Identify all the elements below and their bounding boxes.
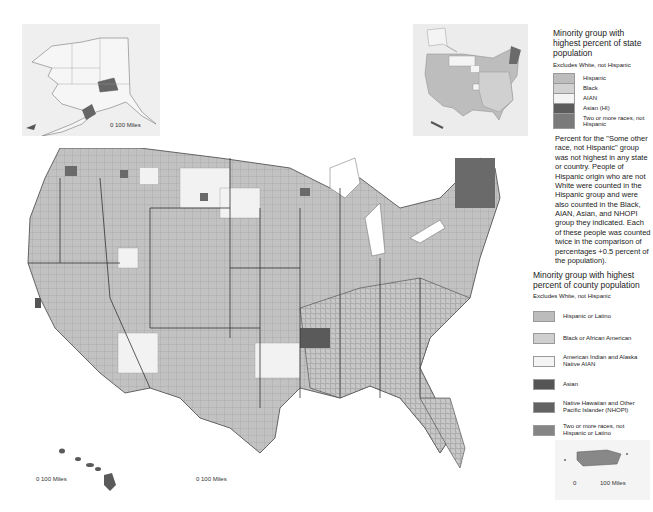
swatch-nhopi (533, 402, 555, 413)
states-overview-map (413, 24, 528, 136)
hawaii-scale-label: 0 100 Miles (36, 476, 67, 482)
legend-label: Black (583, 85, 598, 92)
swatch-black (533, 333, 555, 344)
legend-label: Asian (563, 381, 578, 388)
state-legend: Minority group with highest percent of s… (553, 28, 651, 129)
legend-label: Native Hawaiian and Other Pacific Island… (563, 400, 649, 414)
swatch-aian (533, 356, 555, 367)
state-legend-item-aian: AIAN (553, 93, 651, 103)
state-legend-title: Minority group with highest percent of s… (553, 28, 651, 59)
swatch-asian (553, 103, 575, 114)
state-legend-subtitle: Excludes White, not Hispanic (553, 62, 651, 69)
legend-label: AIAN (583, 95, 597, 102)
county-legend-item-aian: American Indian and Alaska Native AIAN (533, 349, 651, 373)
legend-label: Hispanic or Latino (563, 313, 611, 320)
state-legend-item-black: Black (553, 83, 651, 93)
swatch-two-or-more (553, 113, 575, 129)
puerto-rico-scale: 0 100 Miles (573, 480, 633, 486)
hawaii-map (50, 445, 150, 495)
conus-county-map (0, 148, 520, 488)
county-legend-item-hispanic: Hispanic or Latino (533, 305, 651, 327)
legend-label: Asian (HI) (583, 105, 610, 112)
county-legend-subtitle: Excludes White, not Hispanic (533, 293, 651, 300)
legend-label: Hispanic (583, 75, 606, 82)
swatch-two-or-more (533, 425, 555, 436)
state-legend-item-hispanic: Hispanic (553, 73, 651, 83)
county-legend-item-black: Black or African American (533, 327, 651, 349)
hawaii-scale: 0 100 Miles (36, 476, 67, 482)
alaska-scale: 0 100 Miles (110, 122, 141, 128)
state-legend-item-asian: Asian (HI) (553, 103, 651, 113)
legend-label: Black or African American (563, 335, 631, 342)
puerto-rico-map (555, 440, 650, 480)
conus-scale-label: 0 100 Miles (196, 476, 227, 482)
legend-label: Two or more races, not Hispanic (583, 115, 651, 129)
legend-label: American Indian and Alaska Native AIAN (563, 354, 643, 368)
state-legend-item-two-or-more: Two or more races, not Hispanic (553, 113, 651, 129)
swatch-hispanic-latino (533, 311, 555, 322)
county-legend: Minority group with highest percent of c… (533, 270, 651, 441)
pr-scale-zero: 0 (573, 480, 576, 486)
swatch-asian (533, 379, 555, 390)
alaska-scale-label: 0 100 Miles (110, 122, 141, 128)
alaska-inset: 0 100 Miles (22, 24, 160, 136)
puerto-rico-inset: 0 100 Miles (555, 440, 650, 500)
county-legend-item-asian: Asian (533, 373, 651, 395)
pr-scale-label: 100 Miles (600, 480, 626, 486)
legend-label: Two or more races, not Hispanic or Latin… (563, 423, 643, 437)
alaska-map (22, 24, 160, 136)
county-legend-item-nhopi: Native Hawaiian and Other Pacific Island… (533, 395, 651, 419)
states-overview-inset (413, 24, 528, 136)
county-legend-item-two-or-more: Two or more races, not Hispanic or Latin… (533, 419, 651, 441)
methodology-note: Percent for the "Some other race, not Hi… (555, 134, 651, 265)
county-legend-title: Minority group with highest percent of c… (533, 270, 651, 290)
conus-scale: 0 100 Miles (196, 476, 227, 482)
